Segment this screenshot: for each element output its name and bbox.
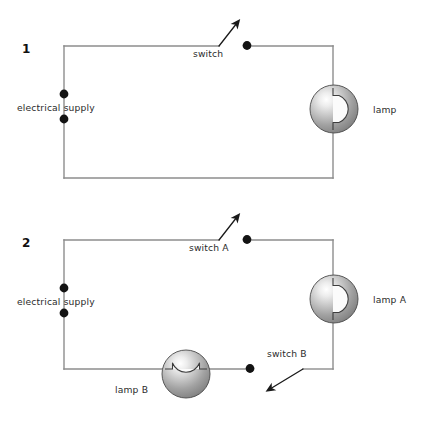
circuit-1-switch-arm-icon[interactable] xyxy=(219,23,237,46)
circuit-2-supply-label: electrical supply xyxy=(17,296,95,307)
circuit-2-switch-b-contact-dot[interactable] xyxy=(246,364,255,373)
circuit-2-lamp-b-icon xyxy=(162,350,210,398)
circuit-2-switch-a-label: switch A xyxy=(189,242,229,253)
circuit-1-supply-terminal-bottom xyxy=(60,115,69,124)
circuit-2-switch-b-label: switch B xyxy=(267,348,307,359)
circuit-diagram-svg: 1 switch electrical supply xyxy=(0,0,430,426)
circuit-2-switch-a-contact-dot[interactable] xyxy=(243,235,252,244)
circuit-2-supply-terminal-top xyxy=(60,284,69,293)
circuit-1-switch-label: switch xyxy=(193,48,223,59)
circuit-2-lamp-b-label: lamp B xyxy=(115,384,148,395)
circuit-1-supply-terminal-top xyxy=(60,90,69,99)
circuit-2-lamp-a-label: lamp A xyxy=(373,294,407,305)
circuit-2-lamp-a-icon xyxy=(310,275,358,323)
circuit-1: 1 switch electrical supply xyxy=(17,23,397,178)
circuit-2-switch-b-arm-icon[interactable] xyxy=(270,369,303,389)
circuit-2: 2 switch A switch B xyxy=(17,217,407,398)
circuit-2-number: 2 xyxy=(22,236,30,250)
circuit-2-supply-terminal-bottom xyxy=(60,309,69,318)
circuit-2-switch-a-arm-icon[interactable] xyxy=(219,217,237,240)
circuit-1-lamp-icon xyxy=(310,85,358,133)
circuit-1-lamp-label: lamp xyxy=(373,104,397,115)
circuit-1-number: 1 xyxy=(22,42,30,56)
circuit-1-supply-label: electrical supply xyxy=(17,102,95,113)
diagram-canvas: 1 switch electrical supply xyxy=(0,0,430,426)
circuit-1-switch-contact-dot[interactable] xyxy=(243,41,252,50)
